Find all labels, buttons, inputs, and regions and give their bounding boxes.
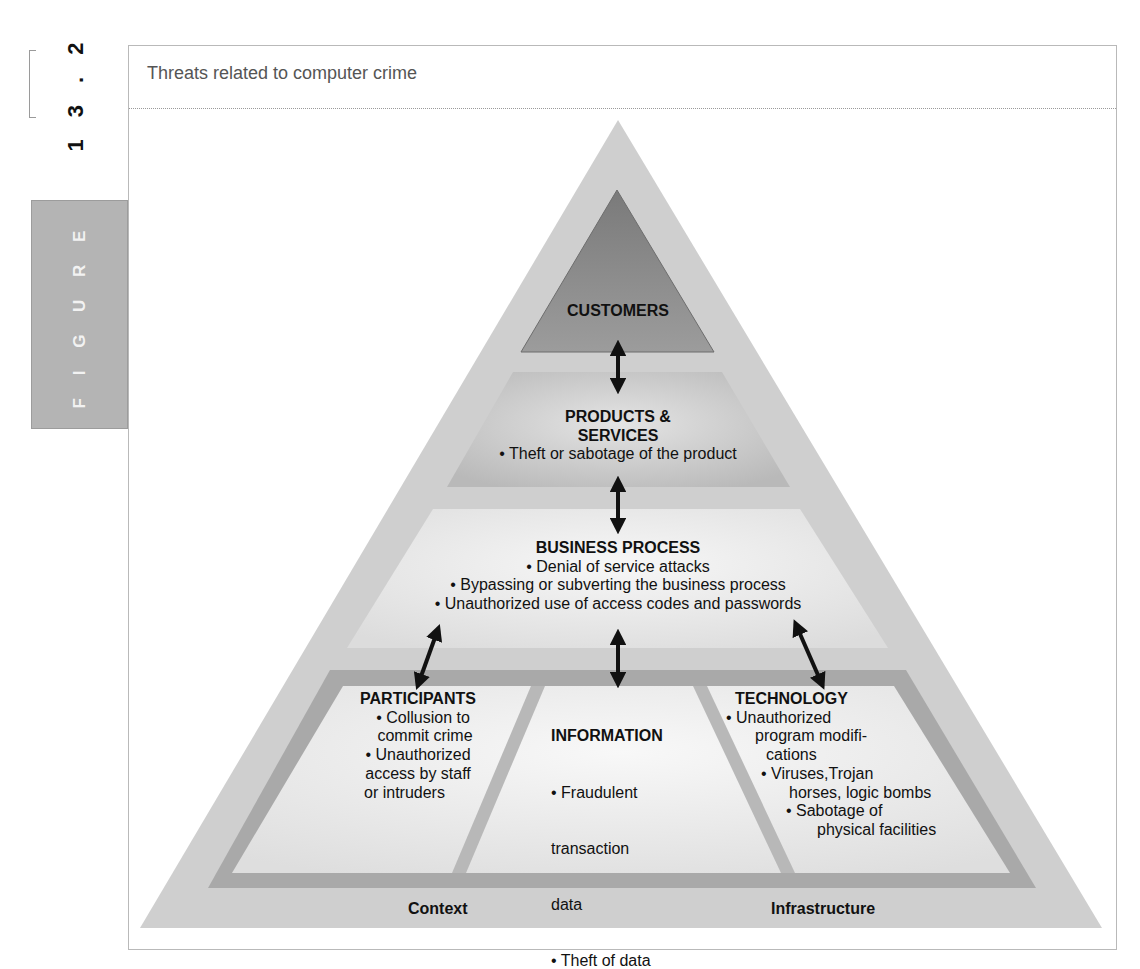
participants-line: • Unauthorized	[318, 746, 518, 765]
information-label: INFORMATION • Fraudulent transaction dat…	[551, 690, 721, 969]
information-line: transaction	[551, 840, 721, 859]
products-heading-line1: PRODUCTS &	[448, 408, 788, 427]
business-item: • Bypassing or subverting the business p…	[368, 576, 868, 595]
participants-heading: PARTICIPANTS	[318, 690, 518, 709]
products-item: • Theft or sabotage of the product	[448, 445, 788, 464]
information-line: • Theft of data	[551, 952, 721, 969]
technology-line: physical facilities	[726, 821, 986, 840]
context-label: Context	[408, 900, 468, 918]
technology-heading: TECHNOLOGY	[726, 690, 986, 709]
infrastructure-label: Infrastructure	[771, 900, 875, 918]
technology-line: • Viruses,Trojan	[726, 765, 986, 784]
technology-line: horses, logic bombs	[726, 784, 986, 803]
information-line: • Fraudulent	[551, 784, 721, 803]
participants-label: PARTICIPANTS • Collusion to commit crime…	[318, 690, 518, 802]
customers-heading: CUSTOMERS	[548, 302, 688, 321]
products-heading-line2: SERVICES	[448, 427, 788, 446]
business-item: • Denial of service attacks	[368, 558, 868, 577]
technology-line: • Sabotage of	[726, 802, 986, 821]
business-item: • Unauthorized use of access codes and p…	[368, 595, 868, 614]
business-heading: BUSINESS PROCESS	[368, 539, 868, 558]
technology-line: program modifi-	[726, 727, 986, 746]
business-label: BUSINESS PROCESS • Denial of service att…	[368, 539, 868, 614]
participants-line: access by staff	[318, 765, 518, 784]
information-heading: INFORMATION	[551, 727, 721, 746]
technology-line: • Unauthorized	[726, 709, 986, 728]
products-label: PRODUCTS & SERVICES • Theft or sabotage …	[448, 408, 788, 464]
technology-line: cations	[726, 746, 986, 765]
participants-line: or intruders	[318, 784, 518, 803]
participants-line: • Collusion to	[318, 709, 518, 728]
participants-line: commit crime	[318, 727, 518, 746]
technology-label: TECHNOLOGY • Unauthorized program modifi…	[726, 690, 986, 840]
information-line: data	[551, 896, 721, 915]
customers-label: CUSTOMERS	[548, 302, 688, 321]
